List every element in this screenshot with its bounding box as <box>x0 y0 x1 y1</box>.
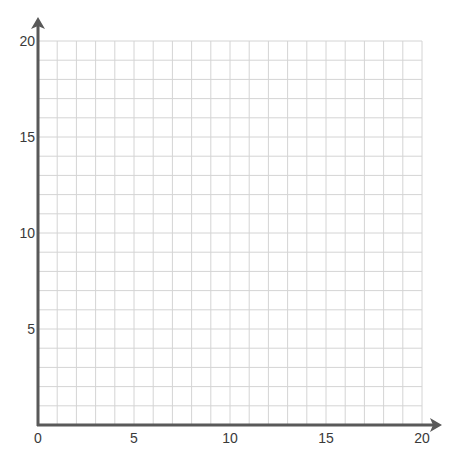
x-tick-label: 10 <box>222 430 238 446</box>
coordinate-grid: 05101520 5101520 <box>0 0 458 459</box>
x-tick-label: 20 <box>414 430 430 446</box>
y-tick-label: 20 <box>19 33 35 49</box>
x-tick-label: 5 <box>130 430 138 446</box>
y-tick-label: 5 <box>27 321 35 337</box>
x-tick-label: 15 <box>318 430 334 446</box>
grid-lines <box>38 41 422 425</box>
x-tick-label: 0 <box>34 430 42 446</box>
y-axis-tick-labels: 5101520 <box>19 33 35 337</box>
y-tick-label: 10 <box>19 225 35 241</box>
x-axis-tick-labels: 05101520 <box>34 430 430 446</box>
y-tick-label: 15 <box>19 129 35 145</box>
